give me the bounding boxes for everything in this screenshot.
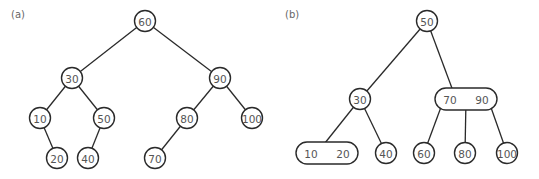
node-key: 50 xyxy=(420,16,433,28)
node-key: 80 xyxy=(180,113,193,125)
panel-b-tree: 503070901020406080100 xyxy=(296,11,518,165)
node-key: 40 xyxy=(81,153,94,165)
tree-edge xyxy=(145,21,220,78)
tree-node-100: 100 xyxy=(242,108,263,129)
tree-node-30: 30 xyxy=(350,89,371,110)
tree-edge xyxy=(72,21,145,78)
node-key: 20 xyxy=(336,148,349,160)
node-key: 60 xyxy=(138,16,151,28)
node-key: 100 xyxy=(497,148,517,160)
node-key: 30 xyxy=(353,94,366,106)
tree-node-60: 60 xyxy=(135,11,156,32)
node-key: 50 xyxy=(97,113,110,125)
node-key: 10 xyxy=(304,148,317,160)
node-key: 20 xyxy=(50,153,63,165)
tree-node-70-90: 7090 xyxy=(435,88,497,110)
node-key: 30 xyxy=(65,73,78,85)
node-key: 90 xyxy=(213,73,226,85)
tree-node-30: 30 xyxy=(62,68,83,89)
tree-node-70: 70 xyxy=(145,148,166,169)
node-key: 70 xyxy=(148,153,161,165)
node-key: 40 xyxy=(379,148,392,160)
tree-node-60: 60 xyxy=(414,143,435,164)
tree-node-40: 40 xyxy=(376,143,397,164)
tree-node-80: 80 xyxy=(177,108,198,129)
tree-node-50: 50 xyxy=(417,11,438,32)
tree-node-10: 10 xyxy=(30,108,51,129)
node-key: 60 xyxy=(417,148,430,160)
tree-node-10-20: 1020 xyxy=(296,142,358,164)
tree-node-80: 80 xyxy=(455,143,476,164)
node-key: 90 xyxy=(475,94,488,106)
tree-node-40: 40 xyxy=(78,148,99,169)
tree-node-100: 100 xyxy=(497,143,518,164)
node-key: 100 xyxy=(242,113,262,125)
panel-a-tree: 603090105080100204070 xyxy=(30,11,263,169)
node-key: 70 xyxy=(443,94,456,106)
tree-node-90: 90 xyxy=(210,68,231,89)
tree-node-50: 50 xyxy=(94,108,115,129)
tree-node-20: 20 xyxy=(47,148,68,169)
tree-edge xyxy=(360,21,427,99)
tree-diagram: 6030901050801002040705030709010204060801… xyxy=(0,0,539,179)
node-key: 10 xyxy=(33,113,46,125)
node-key: 80 xyxy=(458,148,471,160)
